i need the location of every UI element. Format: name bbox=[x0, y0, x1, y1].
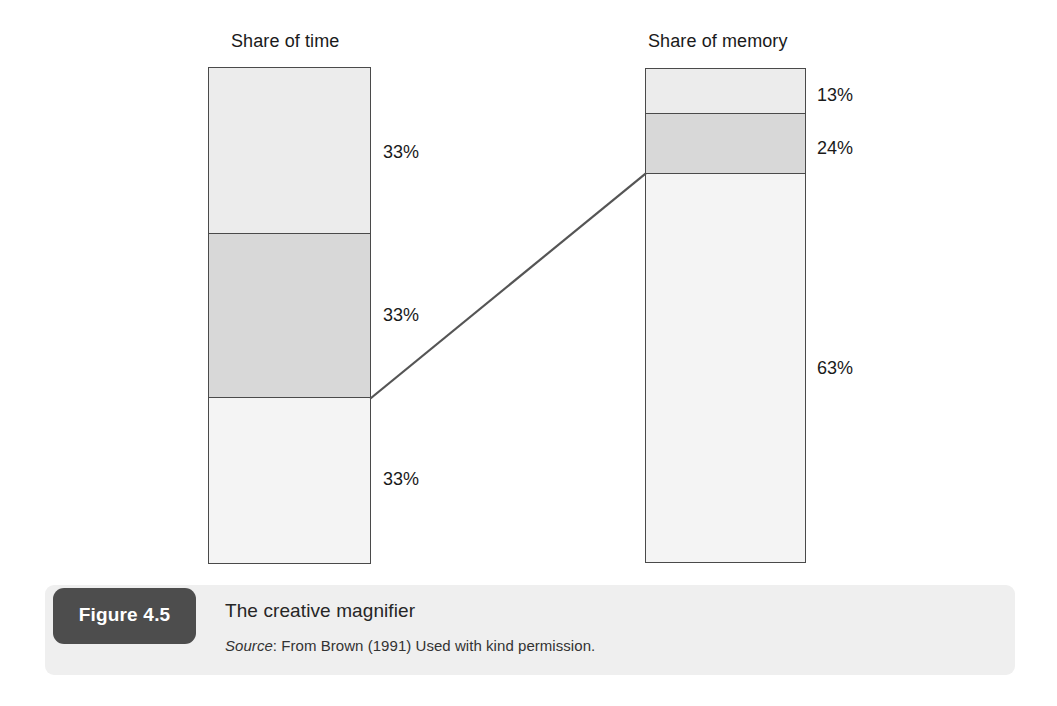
connector-line-icon bbox=[0, 0, 1057, 580]
chart-area: Share of time Share of memory 33% 33% 33… bbox=[0, 0, 1057, 580]
segment-label-memory-bottom: 63% bbox=[817, 358, 853, 379]
figure-caption-title: The creative magnifier bbox=[225, 600, 415, 622]
segment-label-time-middle: 33% bbox=[383, 305, 419, 326]
segment-label-memory-top: 13% bbox=[817, 85, 853, 106]
segment-label-memory-middle: 24% bbox=[817, 138, 853, 159]
figure-caption-source-text: : From Brown (1991) Used with kind permi… bbox=[273, 637, 595, 654]
figure-caption-source-label: Source bbox=[225, 637, 273, 654]
figure-caption-source: Source: From Brown (1991) Used with kind… bbox=[225, 637, 595, 654]
segment-label-time-top: 33% bbox=[383, 142, 419, 163]
figure-number-badge: Figure 4.5 bbox=[53, 588, 196, 644]
segment-label-time-bottom: 33% bbox=[383, 469, 419, 490]
figure-container: Share of time Share of memory 33% 33% 33… bbox=[0, 0, 1057, 706]
figure-caption-strip: Figure 4.5 The creative magnifier Source… bbox=[45, 585, 1015, 675]
figure-number-label: Figure 4.5 bbox=[53, 604, 196, 626]
